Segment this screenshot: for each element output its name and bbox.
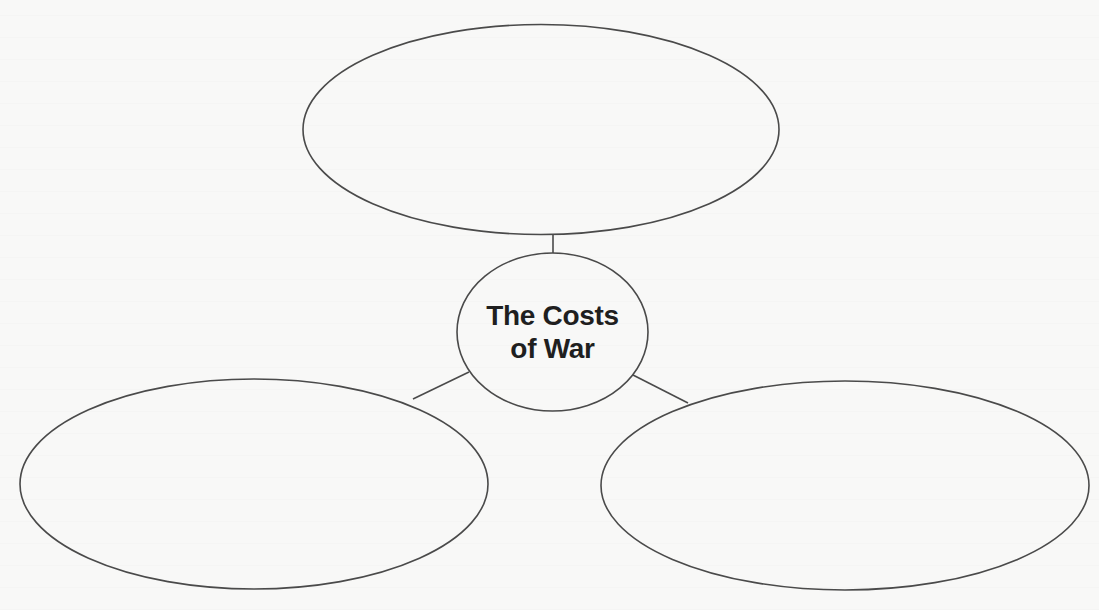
center-node-label: The Costs of War bbox=[457, 253, 648, 411]
branch-node-bottom-right[interactable] bbox=[601, 381, 1089, 590]
branch-node-top[interactable] bbox=[303, 25, 779, 235]
web-organizer-diagram: The Costs of War bbox=[0, 0, 1099, 610]
center-label-line-1: The Costs bbox=[486, 299, 619, 332]
branch-node-bottom-left[interactable] bbox=[20, 379, 488, 589]
center-label-line-2: of War bbox=[510, 332, 594, 365]
